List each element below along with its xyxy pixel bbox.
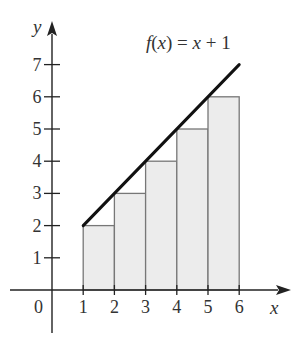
y-axis-arrow-icon [47, 21, 57, 36]
y-tick-label: 3 [33, 183, 42, 203]
riemann-sum-chart: 1234561234567 f(x) = x + 1 y x 0 [0, 0, 294, 342]
rectangle-bar [146, 161, 177, 290]
x-tick-label: 1 [79, 297, 88, 317]
rectangle-bar [177, 129, 208, 290]
y-tick-label: 2 [33, 216, 42, 236]
y-axis-label: y [31, 16, 42, 37]
function-label: f(x) = x + 1 [146, 32, 231, 54]
x-tick-label: 2 [110, 297, 119, 317]
x-tick-label: 5 [204, 297, 213, 317]
x-tick-label: 4 [172, 297, 181, 317]
y-tick-label: 6 [33, 87, 42, 107]
rectangle-bar [114, 193, 145, 290]
y-tick-label: 7 [33, 55, 42, 75]
origin-label: 0 [34, 297, 43, 317]
rectangle-bar [83, 226, 114, 290]
x-axis-label: x [269, 297, 279, 318]
x-tick-label: 6 [235, 297, 244, 317]
rectangle-bar [208, 97, 239, 290]
rectangles [83, 97, 239, 290]
x-tick-label: 3 [141, 297, 150, 317]
y-tick-label: 5 [33, 119, 42, 139]
y-tick-label: 4 [33, 151, 42, 171]
x-axis-arrow-icon [276, 285, 291, 295]
y-tick-label: 1 [33, 248, 42, 268]
